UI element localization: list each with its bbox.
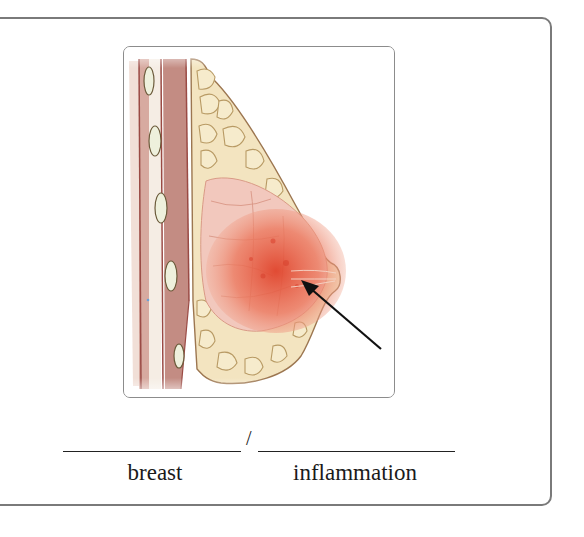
breast-anatomy-illustration <box>124 47 395 398</box>
answer-blank-2[interactable] <box>258 451 455 452</box>
separator-slash: / <box>246 427 252 450</box>
illustration-frame <box>123 46 395 398</box>
term-label-breast: breast <box>105 460 205 486</box>
answer-blank-1[interactable] <box>63 451 241 452</box>
term-label-inflammation: inflammation <box>280 460 430 486</box>
